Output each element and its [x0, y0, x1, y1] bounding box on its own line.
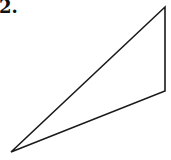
triangle-shape — [11, 7, 165, 152]
triangle-figure — [0, 0, 171, 160]
